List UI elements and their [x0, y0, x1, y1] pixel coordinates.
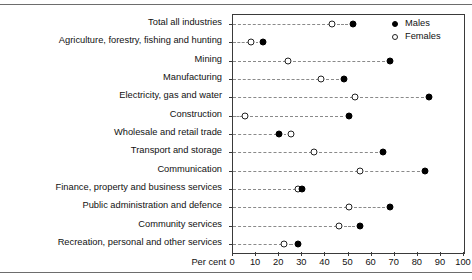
category-label: Wholesale and retail trade: [114, 127, 222, 137]
row-dashed-guide: [233, 152, 312, 153]
x-axis-tick: [324, 252, 325, 256]
x-axis-tick: [348, 252, 349, 256]
data-point-females: [329, 21, 336, 28]
x-axis-tick-label: 70: [389, 257, 399, 268]
category-label: Finance, property and business services: [56, 182, 222, 192]
data-point-males: [421, 167, 428, 174]
row-dashed-guide-mid: [289, 244, 293, 245]
data-point-females: [357, 167, 364, 174]
x-axis-tick-label: 50: [342, 257, 352, 268]
row-dashed-guide: [233, 207, 347, 208]
row-dashed-guide-mid: [250, 116, 344, 117]
x-axis-tick: [278, 252, 279, 256]
x-axis-tick: [301, 252, 302, 256]
data-point-males: [387, 204, 394, 211]
data-point-females: [345, 204, 352, 211]
category-label: Recreation, personal and other services: [58, 237, 222, 247]
x-axis-tick-label: 20: [273, 257, 283, 268]
data-point-males: [345, 112, 352, 119]
x-axis-tick: [440, 252, 441, 256]
x-axis-tick: [232, 252, 233, 256]
x-axis-tick-label: 30: [296, 257, 306, 268]
legend-label: Females: [405, 31, 441, 42]
category-label: Public administration and defence: [82, 200, 222, 210]
x-axis-tick-label: 100: [455, 257, 471, 268]
data-point-females: [287, 131, 294, 138]
bottom-divider-rule: [0, 272, 472, 273]
row-dashed-guide-mid: [256, 42, 258, 43]
category-label: Electricity, gas and water: [119, 90, 222, 100]
row-dashed-guide: [233, 24, 330, 25]
data-point-females: [336, 222, 343, 229]
category-label: Mining: [195, 54, 222, 64]
row-dashed-guide-mid: [319, 152, 378, 153]
x-axis-tick: [255, 252, 256, 256]
data-point-males: [380, 149, 387, 156]
x-axis-tick: [417, 252, 418, 256]
row-dashed-guide: [233, 134, 277, 135]
data-point-males: [426, 94, 433, 101]
row-dashed-guide: [233, 79, 319, 80]
data-point-females: [317, 76, 324, 83]
row-dashed-guide: [233, 244, 282, 245]
data-point-males: [357, 222, 364, 229]
x-axis-tick: [394, 252, 395, 256]
row-dashed-guide-mid: [337, 24, 348, 25]
x-axis-tick-label: 0: [229, 257, 234, 268]
data-point-females: [352, 94, 359, 101]
x-axis: 0102030405060708090100: [232, 252, 463, 272]
data-point-females: [310, 149, 317, 156]
x-axis-title: Per cent: [178, 257, 226, 268]
x-axis-tick-label: 60: [365, 257, 375, 268]
x-axis-tick-label: 80: [412, 257, 422, 268]
category-label: Community services: [138, 219, 222, 229]
category-label: Construction: [170, 109, 222, 119]
x-axis-tick-label: 40: [319, 257, 329, 268]
row-dashed-guide-mid: [360, 97, 424, 98]
top-divider-rule: [0, 4, 472, 5]
x-axis-tick: [371, 252, 372, 256]
row-dashed-guide-mid: [326, 79, 339, 80]
data-point-females: [241, 112, 248, 119]
data-point-males: [350, 21, 357, 28]
row-dashed-guide-mid: [284, 134, 286, 135]
row-dashed-guide: [233, 97, 353, 98]
data-point-females: [248, 39, 255, 46]
row-dashed-guide-mid: [354, 207, 386, 208]
category-label: Transport and storage: [131, 145, 222, 155]
x-axis-tick-label: 90: [435, 257, 445, 268]
chart-legend: MalesFemales: [386, 18, 466, 54]
data-point-males: [387, 57, 394, 64]
data-point-males: [294, 240, 301, 247]
category-label: Communication: [157, 164, 222, 174]
data-point-females: [285, 57, 292, 64]
data-point-males: [340, 76, 347, 83]
x-axis-tick-label: 10: [250, 257, 260, 268]
chart-figure: Total all industriesAgriculture, forestr…: [0, 0, 472, 280]
data-point-males: [276, 131, 283, 138]
data-point-males: [299, 185, 306, 192]
row-dashed-guide: [233, 189, 296, 190]
open-circle-icon: [392, 34, 398, 40]
row-dashed-guide: [233, 226, 337, 227]
row-dashed-guide: [233, 61, 286, 62]
row-dashed-guide-mid: [293, 61, 385, 62]
legend-label: Males: [405, 18, 430, 29]
filled-circle-icon: [392, 21, 398, 27]
category-label: Total all industries: [148, 17, 222, 27]
data-point-males: [260, 39, 267, 46]
category-label: Manufacturing: [163, 72, 222, 82]
row-dashed-guide-mid: [365, 171, 420, 172]
row-dashed-guide-mid: [344, 226, 355, 227]
x-axis-tick: [463, 252, 464, 256]
row-dashed-guide: [233, 171, 358, 172]
data-point-females: [280, 240, 287, 247]
category-label: Agriculture, forestry, fishing and hunti…: [59, 35, 222, 45]
